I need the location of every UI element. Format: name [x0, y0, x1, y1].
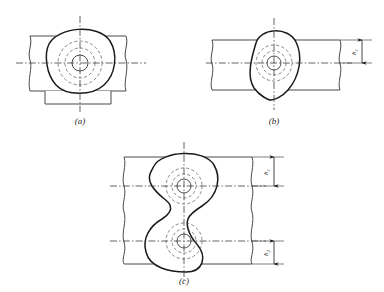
- figure-c-dimension-h1: h1: [252, 157, 284, 186]
- figure-c-caption: (c): [179, 276, 189, 286]
- figure-b: h1 (b): [206, 18, 372, 126]
- drawing-sheet: .outline{fill:none;stroke:#1a1a1a;stroke…: [0, 0, 384, 292]
- figure-b-caption: (b): [269, 116, 280, 126]
- dimension-label-h2-c: h2: [262, 250, 271, 257]
- figure-b-dimension-h1: h1: [340, 40, 372, 63]
- figure-a-caption: (a): [75, 116, 86, 126]
- figure-a: (a): [16, 16, 146, 126]
- dimension-label-h1-c: h1: [262, 169, 271, 175]
- drawing-canvas: .outline{fill:none;stroke:#1a1a1a;stroke…: [0, 0, 384, 292]
- dimension-label-h1-b: h1: [350, 49, 359, 55]
- figure-c: h1 h2 (c): [110, 142, 284, 286]
- figure-a-profile: [46, 29, 114, 93]
- figure-c-dimension-h2: h2: [252, 241, 284, 264]
